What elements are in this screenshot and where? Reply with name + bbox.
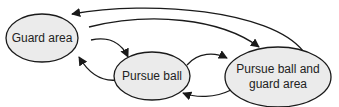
node-guard-area: Guard area xyxy=(6,14,78,62)
edge-both-to-guard xyxy=(72,8,303,51)
node-label-line-1: Pursue ball and xyxy=(236,62,319,76)
edge-pursue-to-guard xyxy=(79,57,117,80)
node-pursue-ball-and-guard-area: Pursue ball and guard area xyxy=(225,47,331,107)
node-label-line-2: guard area xyxy=(249,77,307,91)
node-pursue-ball: Pursue ball xyxy=(114,52,190,100)
node-label: Guard area xyxy=(12,31,73,45)
edge-both-to-pursue xyxy=(183,90,231,96)
edge-guard-to-pursue xyxy=(91,39,128,57)
edge-pursue-to-both xyxy=(187,54,227,65)
edge-guard-to-both xyxy=(89,19,259,47)
node-label: Pursue ball xyxy=(122,69,182,83)
state-diagram: Guard area Pursue ball Pursue ball and g… xyxy=(0,0,339,107)
